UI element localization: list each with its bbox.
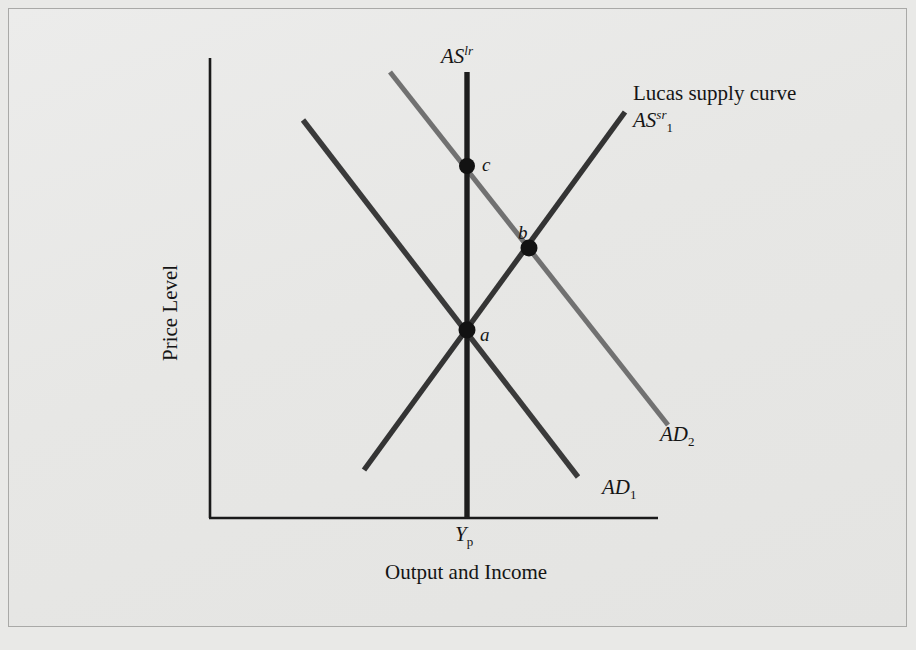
x-axis-title: Output and Income <box>385 562 547 583</box>
curve-label-ad-1: AD1 <box>602 477 637 501</box>
curve-ad-1 <box>303 120 578 477</box>
x-axis-tick-label-yp: Yp <box>455 524 473 548</box>
point-label-a: a <box>480 325 490 344</box>
figure-container: ASlr Lucas supply curve ASsr1 AD2 AD1 Yp… <box>0 0 916 650</box>
annotation-lucas-supply-curve: Lucas supply curve <box>633 83 796 104</box>
point-marker-c <box>459 158 475 174</box>
curve-label-as-lr: ASlr <box>441 44 473 67</box>
point-marker-a <box>459 322 476 339</box>
curve-label-as-sr-1: ASsr1 <box>633 108 673 134</box>
curve-as-sr-1 <box>364 112 625 470</box>
point-label-c: c <box>482 155 490 174</box>
curve-label-ad-2: AD2 <box>660 424 695 448</box>
point-label-b: b <box>518 223 528 242</box>
